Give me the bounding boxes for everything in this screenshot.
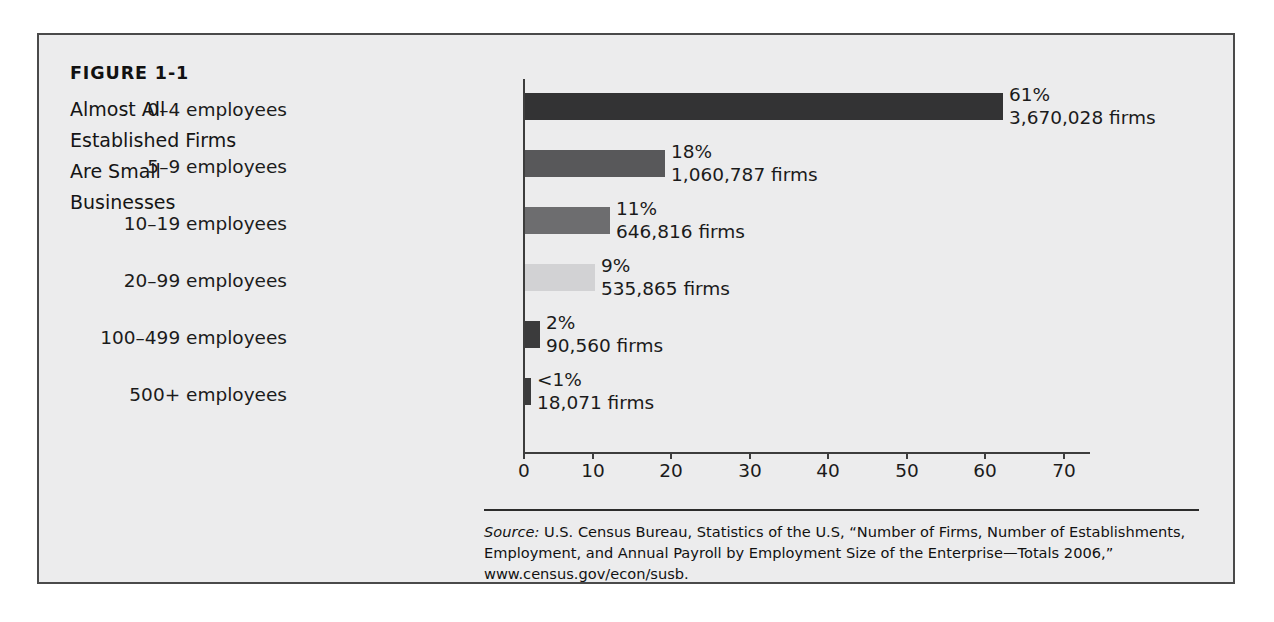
bar-0 bbox=[524, 93, 1003, 120]
bar-3 bbox=[524, 264, 595, 291]
firms-value-5: 18,071 firms bbox=[537, 391, 654, 414]
figure-page: FIGURE 1-1 Almost All Established Firms … bbox=[0, 0, 1274, 622]
category-label-3: 20–99 employees bbox=[67, 270, 287, 291]
category-label-2: 10–19 employees bbox=[67, 213, 287, 234]
x-tick-0 bbox=[523, 452, 525, 459]
x-tick-label-60: 60 bbox=[965, 460, 1005, 481]
firms-value-1: 1,060,787 firms bbox=[671, 163, 818, 186]
x-tick-label-30: 30 bbox=[730, 460, 770, 481]
x-tick-50 bbox=[906, 452, 908, 459]
x-axis-line bbox=[523, 452, 1090, 454]
source-label: Source: bbox=[484, 523, 539, 540]
percent-value-3: 9% bbox=[601, 254, 730, 277]
value-label-4: 2% 90,560 firms bbox=[546, 311, 663, 357]
category-label-5: 500+ employees bbox=[67, 384, 287, 405]
category-label-0: 0–4 employees bbox=[67, 99, 287, 120]
source-divider bbox=[484, 509, 1199, 511]
figure-frame: FIGURE 1-1 Almost All Established Firms … bbox=[37, 33, 1235, 584]
bar-chart: 0–4 employees 5–9 employees 10–19 employ… bbox=[39, 35, 1233, 582]
x-tick-label-10: 10 bbox=[573, 460, 613, 481]
firms-value-4: 90,560 firms bbox=[546, 334, 663, 357]
x-tick-label-0: 0 bbox=[504, 460, 544, 481]
x-tick-10 bbox=[592, 452, 594, 459]
x-tick-30 bbox=[749, 452, 751, 459]
firms-value-2: 646,816 firms bbox=[616, 220, 745, 243]
source-note: Source: U.S. Census Bureau, Statistics o… bbox=[484, 521, 1202, 584]
bar-5 bbox=[524, 378, 531, 405]
category-label-4: 100–499 employees bbox=[67, 327, 287, 348]
x-tick-60 bbox=[984, 452, 986, 459]
firms-value-3: 535,865 firms bbox=[601, 277, 730, 300]
x-tick-label-20: 20 bbox=[651, 460, 691, 481]
bar-1 bbox=[524, 150, 665, 177]
x-tick-70 bbox=[1063, 452, 1065, 459]
percent-value-0: 61% bbox=[1009, 83, 1156, 106]
bar-4 bbox=[524, 321, 540, 348]
percent-value-5: <1% bbox=[537, 368, 654, 391]
x-tick-label-50: 50 bbox=[887, 460, 927, 481]
value-label-0: 61% 3,670,028 firms bbox=[1009, 83, 1156, 129]
x-tick-label-40: 40 bbox=[808, 460, 848, 481]
percent-value-4: 2% bbox=[546, 311, 663, 334]
value-label-2: 11% 646,816 firms bbox=[616, 197, 745, 243]
category-label-1: 5–9 employees bbox=[67, 156, 287, 177]
y-axis-line bbox=[523, 79, 525, 453]
x-tick-label-70: 70 bbox=[1044, 460, 1084, 481]
value-label-5: <1% 18,071 firms bbox=[537, 368, 654, 414]
value-label-3: 9% 535,865 firms bbox=[601, 254, 730, 300]
value-label-1: 18% 1,060,787 firms bbox=[671, 140, 818, 186]
bar-2 bbox=[524, 207, 610, 234]
percent-value-2: 11% bbox=[616, 197, 745, 220]
firms-value-0: 3,670,028 firms bbox=[1009, 106, 1156, 129]
x-tick-20 bbox=[670, 452, 672, 459]
x-tick-40 bbox=[827, 452, 829, 459]
percent-value-1: 18% bbox=[671, 140, 818, 163]
source-text: U.S. Census Bureau, Statistics of the U.… bbox=[484, 523, 1185, 582]
